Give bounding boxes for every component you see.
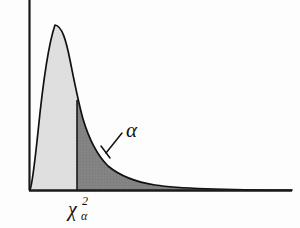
acceptance-region (30, 25, 292, 190)
alpha-leader-tick (101, 146, 110, 158)
chi-superscript-two: 2 (82, 194, 88, 208)
figure-container: α χ 2 α (0, 0, 300, 228)
chi-subscript-alpha: α (81, 209, 88, 223)
alpha-label: α (126, 118, 138, 142)
critical-value-label: χ 2 α (66, 194, 88, 223)
alpha-leader-line (106, 133, 122, 153)
chi-symbol: χ (66, 198, 78, 221)
chi-square-distribution-chart: α χ 2 α (0, 0, 300, 228)
